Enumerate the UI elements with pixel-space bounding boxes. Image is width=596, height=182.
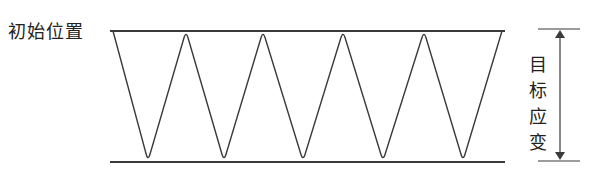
target-strain-char: 应 (527, 104, 549, 130)
strain-cycle-diagram: 初始位置 目 标 应 变 (0, 0, 596, 182)
initial-position-label: 初始位置 (8, 17, 84, 43)
target-strain-char: 标 (527, 78, 549, 104)
strain-waveform (113, 31, 502, 158)
waveform-canvas (0, 0, 596, 182)
target-strain-char: 目 (527, 52, 549, 78)
target-strain-label: 目 标 应 变 (527, 52, 549, 156)
target-strain-char: 变 (527, 130, 549, 156)
